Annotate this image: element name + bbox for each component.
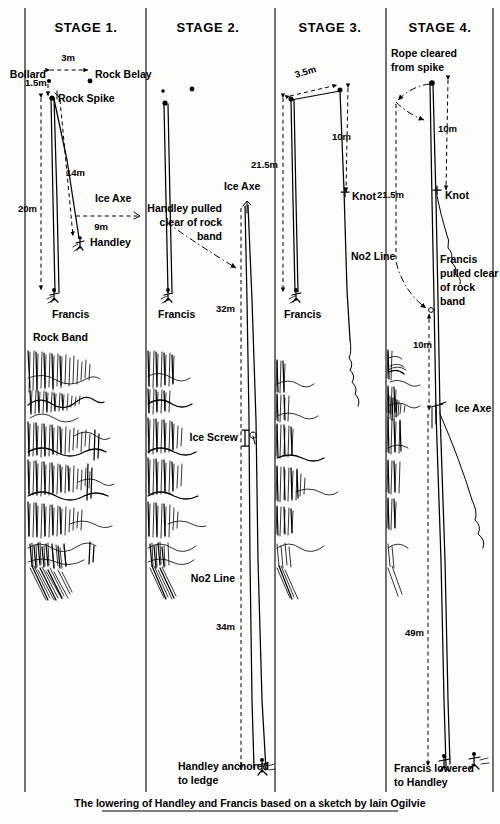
stage-4-note-line2: pulled clear bbox=[440, 267, 498, 279]
stage-2-note-anchored-line2: to ledge bbox=[178, 774, 218, 786]
stage-4-note-rope-cleared-line1: Rope cleared bbox=[391, 47, 457, 59]
stage-1-label-ice-axe: Ice Axe bbox=[95, 192, 132, 204]
stage-2-rock-spike-point bbox=[162, 100, 167, 105]
stage-1-dim-bollard-spike: 1.5m bbox=[25, 77, 47, 88]
stage-3-label-francis: Francis bbox=[284, 308, 322, 320]
figure-caption-group: The lowering of Handley and Francis base… bbox=[74, 797, 425, 811]
stage-4-dim-axe-to-handley: 49m bbox=[405, 627, 424, 638]
stage-4-title: STAGE 4. bbox=[408, 20, 471, 35]
stage-2-note-anchored-line1: Handley anchored bbox=[178, 760, 269, 772]
stage-4-note-line1: Francis bbox=[440, 253, 478, 265]
stage-3-dim-to-francis: 21.5m bbox=[251, 159, 278, 170]
stage-1-dim-bollard-belay: 3m bbox=[61, 52, 75, 63]
stage-2-label-ice-axe: Ice Axe bbox=[224, 180, 261, 192]
stage-1-title: STAGE 1. bbox=[54, 20, 117, 35]
stage-4-dim-band-to-axe: 10m bbox=[413, 339, 432, 350]
stage-1-label-rock-belay: Rock Belay bbox=[95, 68, 152, 80]
diagram-sheet: STAGE 1. 3m Bollard Rock Belay Rock Spik… bbox=[0, 0, 500, 824]
stage-1-label-handley: Handley bbox=[90, 236, 131, 248]
stage-4-note-line4: band bbox=[440, 295, 465, 307]
stage-2-dim-to-axe: 32m bbox=[216, 303, 235, 314]
stage-2-label-francis: Francis bbox=[158, 308, 196, 320]
stage-1-bollard-point bbox=[47, 79, 51, 83]
stage-1-label-francis: Francis bbox=[52, 308, 90, 320]
stage-3-label-knot: Knot bbox=[352, 190, 376, 202]
stage-4-dim-to-anchor: 21.5m bbox=[377, 189, 404, 200]
stage-2-bollard-point bbox=[161, 89, 165, 93]
figure-caption: The lowering of Handley and Francis base… bbox=[74, 797, 425, 809]
stage-4-dim-to-knot: 10m bbox=[438, 123, 457, 134]
stage-2-rock-belay-point bbox=[190, 87, 195, 92]
stage-4-note-lowered-line1: Francis lowered bbox=[394, 762, 474, 774]
stage-4-label-knot: Knot bbox=[445, 189, 469, 201]
stage-2-label-no2-line: No2 Line bbox=[191, 572, 235, 584]
stage-2-note-line1: Handley pulled bbox=[147, 202, 222, 214]
stage-2-dim-to-ledge: 34m bbox=[216, 621, 235, 632]
stage-3-label-no2-line: No2 Line bbox=[351, 250, 395, 262]
stage-2-note-line2: clear of rock bbox=[160, 216, 223, 228]
stage-2-note-line3: band bbox=[197, 230, 222, 242]
stage-1-label-rock-spike: Rock Spike bbox=[58, 92, 115, 104]
stage-2-title: STAGE 2. bbox=[176, 20, 239, 35]
stage-3-title: STAGE 3. bbox=[298, 20, 361, 35]
stage-1-dim-spike-handley: 14m bbox=[66, 167, 85, 178]
page-background bbox=[0, 0, 500, 824]
stage-1-dim-spike-francis: 20m bbox=[18, 203, 37, 214]
stage-2-label-ice-screw: Ice Screw bbox=[190, 431, 239, 443]
stage-4-note-lowered-line2: to Handley bbox=[394, 776, 448, 788]
stage-4-note-line3: of rock bbox=[440, 281, 475, 293]
stage-1-rock-belay-point bbox=[88, 79, 93, 84]
stage-1-label-rock-band: Rock Band bbox=[33, 331, 88, 343]
stage-4-label-ice-axe: Ice Axe bbox=[455, 402, 492, 414]
stage-1-dim-handley-axe: 9m bbox=[94, 221, 108, 232]
stage-4-note-rope-cleared-line2: from spike bbox=[391, 61, 444, 73]
stage-3-dim-to-knot: 10m bbox=[332, 131, 351, 142]
